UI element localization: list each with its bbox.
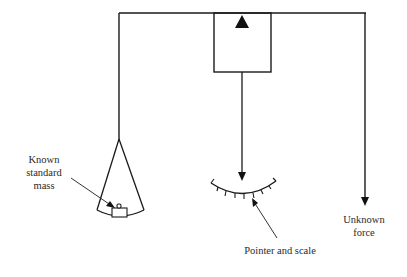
scale [211,178,276,199]
standard-mass-icon [112,204,127,217]
pointer-scale-leader-arrowhead-icon [252,198,258,207]
pointer-scale-label: Pointer and scale [244,245,316,256]
known-mass-label-line2: standard [26,167,62,178]
known-mass-label-line3: mass [34,180,55,191]
known-mass-label-line1: Known [29,154,61,165]
unknown-force-arrowhead-icon [361,197,369,206]
unknown-force-label-line1: Unknown [343,214,385,225]
unknown-force-label-line2: force [353,227,375,238]
known-mass-leader-arrowhead-icon [106,201,115,208]
fulcrum-triangle-icon [235,15,249,28]
balance-diagram: Known standard mass Pointer and scale Un… [0,0,407,277]
pointer-scale-leader [254,202,277,238]
pointer-arrowhead-icon [238,172,246,181]
